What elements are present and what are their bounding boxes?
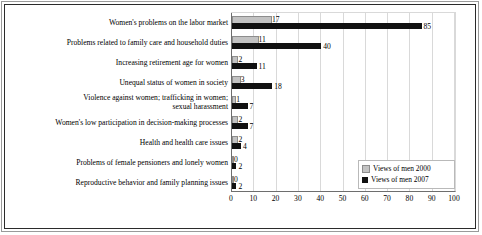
x-tick-label: 0 xyxy=(229,194,233,203)
chart-figure: Women's problems on the labor marketProb… xyxy=(0,0,482,235)
bar-group: 1785 xyxy=(231,16,455,30)
legend-item: Views of men 2000 xyxy=(362,163,451,174)
bar xyxy=(232,103,248,109)
bar xyxy=(232,83,272,89)
bar-group: 24 xyxy=(231,136,455,150)
bar xyxy=(232,163,236,169)
bar-value-label: 0 xyxy=(234,176,238,183)
value-axis-tick-labels: 0102030405060708090100 xyxy=(231,194,456,208)
bar-value-label: 2 xyxy=(238,56,242,63)
bar-value-label: 17 xyxy=(272,16,280,23)
bar xyxy=(232,123,248,129)
bar-group: 211 xyxy=(231,56,455,70)
bar-group: 27 xyxy=(231,116,455,130)
legend-label: Views of men 2000 xyxy=(373,165,431,173)
bar-group: 318 xyxy=(231,76,455,90)
bar-value-label: 40 xyxy=(323,43,331,50)
x-tick-label: 30 xyxy=(294,194,302,203)
category-label: Violence against women; trafficking in w… xyxy=(8,93,228,111)
category-label: Health and health care issues xyxy=(8,138,228,147)
bar-group: 1140 xyxy=(231,36,455,50)
category-label: Women's low participation in decision-ma… xyxy=(8,118,228,127)
x-tick-label: 100 xyxy=(448,194,459,203)
category-label: Problems of female pensioners and lonely… xyxy=(8,158,228,167)
x-tick-label: 60 xyxy=(361,194,369,203)
bar-value-label: 85 xyxy=(424,23,432,30)
bar-value-label: 18 xyxy=(274,83,282,90)
category-axis-labels: Women's problems on the labor marketProb… xyxy=(8,12,228,192)
legend-item: Views of men 2007 xyxy=(362,174,451,185)
x-tick-label: 10 xyxy=(250,194,258,203)
category-label: Problems related to family care and hous… xyxy=(8,38,228,47)
category-label: Reproductive behavior and family plannin… xyxy=(8,178,228,187)
x-tick-label: 50 xyxy=(339,194,347,203)
bar-value-label: 3 xyxy=(241,76,245,83)
x-tick-label: 70 xyxy=(383,194,391,203)
category-label: Unequal status of women in society xyxy=(8,78,228,87)
bar xyxy=(232,43,321,49)
x-tick-label: 20 xyxy=(272,194,280,203)
legend-label: Views of men 2007 xyxy=(371,176,429,184)
x-tick-label: 80 xyxy=(406,194,414,203)
bar xyxy=(232,143,241,149)
x-tick-label: 40 xyxy=(316,194,324,203)
bar-value-label: 2 xyxy=(238,163,242,170)
chart-legend: Views of men 2000Views of men 2007 xyxy=(358,160,455,189)
x-tick-label: 90 xyxy=(428,194,436,203)
bar-value-label: 0 xyxy=(234,156,238,163)
bar-value-label: 2 xyxy=(238,183,242,190)
bar-value-label: 11 xyxy=(259,63,266,70)
bar xyxy=(232,23,422,29)
bar-value-label: 7 xyxy=(250,123,254,130)
category-label: Increasing retirement age for women xyxy=(8,58,228,67)
bar-value-label: 2 xyxy=(238,116,242,123)
bar-value-label: 11 xyxy=(259,36,266,43)
bar xyxy=(232,183,236,189)
bar-group: 17 xyxy=(231,96,455,110)
legend-swatch-icon xyxy=(362,165,370,173)
bar-value-label: 7 xyxy=(250,103,254,110)
legend-swatch-icon xyxy=(362,177,368,183)
bar-value-label: 1 xyxy=(236,96,240,103)
bar xyxy=(232,63,257,69)
bar-value-label: 2 xyxy=(238,136,242,143)
category-label: Women's problems on the labor market xyxy=(8,18,228,27)
bar-value-label: 4 xyxy=(243,143,247,150)
